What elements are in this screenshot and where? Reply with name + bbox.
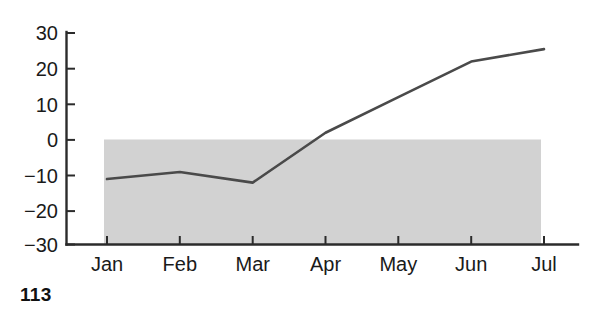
y-axis-label-30: 30	[36, 22, 58, 44]
x-axis-label-jul: Jul	[531, 253, 557, 275]
x-axis-label-jun: Jun	[455, 253, 487, 275]
y-axis-label-minus-30: −30	[24, 234, 58, 256]
line-chart: 30 20 10 0 −10 −20 −30 Jan Feb Mar Apr M…	[0, 0, 604, 322]
x-axis-label-mar: Mar	[235, 253, 270, 275]
y-axis-label-minus-10: −10	[24, 165, 58, 187]
y-axis-label-10: 10	[36, 94, 58, 116]
shaded-region	[104, 140, 541, 245]
figure-container: 30 20 10 0 −10 −20 −30 Jan Feb Mar Apr M…	[0, 0, 604, 322]
x-axis-label-may: May	[379, 253, 417, 275]
y-axis-label-20: 20	[36, 58, 58, 80]
y-axis-label-0: 0	[47, 129, 58, 151]
page-number: 113	[20, 284, 52, 306]
x-axis-label-jan: Jan	[91, 253, 123, 275]
x-axis-label-apr: Apr	[310, 253, 341, 275]
x-axis-label-feb: Feb	[163, 253, 197, 275]
y-axis-label-minus-20: −20	[24, 200, 58, 222]
